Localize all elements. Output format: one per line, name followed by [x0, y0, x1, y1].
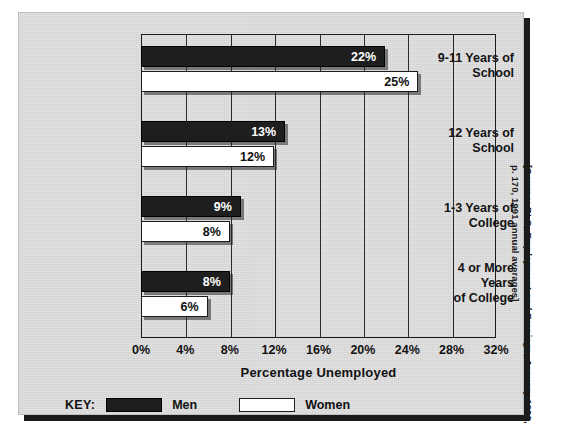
- legend-swatch-men-icon: [106, 398, 162, 412]
- legend-swatch-women-icon: [239, 398, 295, 412]
- legend-label-men: Men: [172, 398, 197, 412]
- category-label-4-or-more-years-of-college: 4 or More Years of College: [401, 261, 523, 306]
- xtick-label-24: 24%: [384, 343, 430, 357]
- bar-value-men-9-11-years-of-school: 22%: [351, 50, 384, 64]
- category-label-line2: School: [401, 141, 514, 156]
- bar-women-1-3-years-of-college: 8%: [141, 221, 230, 242]
- category-label-line2: College: [401, 216, 514, 231]
- category-label-line1: 12 Years of: [401, 126, 514, 141]
- bar-value-men-1-3-years-of-college: 9%: [214, 200, 240, 214]
- bar-value-women-1-3-years-of-college: 8%: [203, 225, 229, 239]
- legend-item-men: Men: [106, 398, 197, 412]
- xtick-label-20: 20%: [340, 343, 386, 357]
- bar-men-4-or-more-years-of-college: 8%: [141, 271, 230, 292]
- category-label-line3: of College: [401, 291, 514, 306]
- bar-value-women-4-or-more-years-of-college: 6%: [181, 300, 207, 314]
- xtick-label-32: 32%: [473, 343, 519, 357]
- xtick-label-0: 0%: [118, 343, 164, 357]
- xtick-label-4: 4%: [162, 343, 208, 357]
- bar-value-men-4-or-more-years-of-college: 8%: [203, 275, 229, 289]
- bar-men-12-years-of-school: 13%: [141, 121, 285, 142]
- x-axis-title: Percentage Unemployed: [141, 365, 496, 380]
- category-label-line1: 4 or More: [401, 261, 514, 276]
- bar-women-9-11-years-of-school: 25%: [141, 71, 418, 92]
- xtick-label-28: 28%: [429, 343, 475, 357]
- source-publication-title: Employment and Earnings: [523, 232, 534, 354]
- category-label-line2: Years: [401, 276, 514, 291]
- source-suffix: , January 1992,: [523, 354, 534, 424]
- xtick-label-16: 16%: [296, 343, 342, 357]
- legend: KEY: Men Women: [65, 398, 392, 412]
- bar-men-1-3-years-of-college: 9%: [141, 196, 241, 217]
- xtick-label-12: 12%: [251, 343, 297, 357]
- xtick-label-8: 8%: [207, 343, 253, 357]
- unemployment-by-education-figure: 9-11 Years of School 12 Years of School …: [0, 0, 574, 444]
- bar-men-9-11-years-of-school: 22%: [141, 46, 385, 67]
- category-label-12-years-of-school: 12 Years of School: [401, 126, 523, 156]
- chart-panel: 9-11 Years of School 12 Years of School …: [18, 12, 524, 415]
- bar-value-men-12-years-of-school: 13%: [251, 125, 284, 139]
- legend-item-women: Women: [239, 398, 350, 412]
- category-label-line1: 9-11 Years of: [401, 51, 514, 66]
- legend-label-women: Women: [305, 398, 350, 412]
- category-label-9-11-years-of-school: 9-11 Years of School: [401, 51, 523, 81]
- bar-value-women-12-years-of-school: 12%: [240, 150, 273, 164]
- category-label-1-3-years-of-college: 1-3 Years of College: [401, 201, 523, 231]
- bar-women-12-years-of-school: 12%: [141, 146, 274, 167]
- legend-title: KEY:: [65, 398, 95, 412]
- bar-women-4-or-more-years-of-college: 6%: [141, 296, 208, 317]
- category-label-line1: 1-3 Years of: [401, 201, 514, 216]
- bar-value-women-9-11-years-of-school: 25%: [384, 75, 417, 89]
- source-prefix: [Source: BLS,: [523, 165, 534, 232]
